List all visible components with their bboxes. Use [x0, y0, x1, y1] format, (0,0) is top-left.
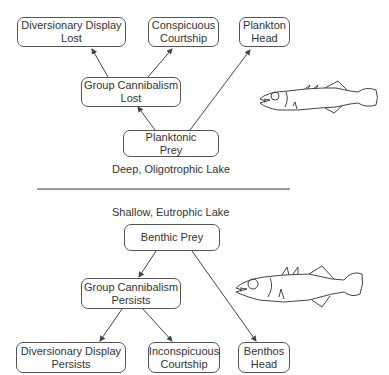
edge-cannib-to-inconspicuous — [143, 309, 172, 341]
caption-deep-lake: Deep, Oligotrophic Lake — [112, 163, 230, 175]
node-inconspicuous-courtship: Inconspicuous Courtship — [148, 342, 220, 373]
edge-benthic-to-cannib — [139, 251, 156, 277]
node-planktonic-prey: Planktonic Prey — [123, 130, 219, 157]
node-conspicuous-courtship: Conspicuous Courtship — [148, 17, 219, 47]
node-label: Planktonic — [146, 131, 197, 144]
node-label: Courtship — [160, 32, 207, 45]
benthic-stickleback-fish-icon — [234, 262, 369, 312]
node-plankton-head: Plankton Head — [239, 17, 290, 47]
node-label: Inconspicuous — [149, 345, 219, 358]
node-diversionary-display-persists: Diversionary Display Persists — [16, 342, 126, 373]
node-label: Group Cannibalism — [84, 79, 178, 92]
edge-cannib-to-diversionary — [92, 49, 108, 77]
node-label: Head — [251, 32, 277, 45]
node-label: Conspicuous — [152, 19, 216, 32]
node-label: Diversionary Display — [21, 345, 121, 358]
node-label: Group Cannibalism — [84, 281, 178, 294]
node-label: Benthic Prey — [141, 231, 203, 244]
node-label: Persists — [51, 358, 90, 371]
node-group-cannibalism-persists: Group Cannibalism Persists — [81, 278, 181, 309]
edge-cannib-to-conspicuous — [148, 49, 172, 77]
edge-cannib-to-diversionary-persists — [100, 309, 122, 341]
node-label: Plankton — [243, 19, 286, 32]
node-label: Prey — [160, 144, 183, 157]
edge-plankprey-to-cannib — [138, 107, 155, 130]
node-label: Head — [251, 358, 277, 371]
caption-shallow-lake: Shallow, Eutrophic Lake — [112, 206, 229, 218]
node-label: Lost — [121, 92, 142, 105]
node-label: Lost — [61, 32, 82, 45]
node-label: Persists — [111, 294, 150, 307]
node-benthos-head: Benthos Head — [238, 342, 290, 373]
node-label: Benthos — [244, 345, 284, 358]
node-group-cannibalism-lost: Group Cannibalism Lost — [81, 77, 181, 107]
edge-plankprey-to-planktonhead — [190, 50, 250, 130]
node-label: Diversionary Display — [21, 19, 121, 32]
node-benthic-prey: Benthic Prey — [124, 224, 220, 251]
node-diversionary-display-lost: Diversionary Display Lost — [17, 17, 126, 47]
limnetic-stickleback-fish-icon — [258, 80, 388, 125]
node-label: Courtship — [160, 358, 207, 371]
edges-layer — [0, 0, 389, 375]
